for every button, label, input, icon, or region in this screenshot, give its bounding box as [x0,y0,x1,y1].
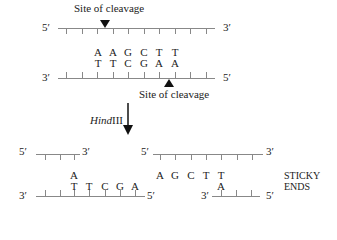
right-frag-upper-backbone [153,154,263,155]
left-frag-lower-five-prime: 5′ [147,190,155,201]
right-frag-five-prime: 5′ [141,146,149,157]
process-arrow-head-icon [123,125,133,135]
five-prime-bottom: 5′ [223,72,231,83]
right-frag-lower-three-prime: 3′ [201,190,209,201]
three-prime-bottom: 3′ [42,72,50,83]
base: A [154,58,164,69]
three-prime-top: 3′ [223,22,231,33]
base: G [170,170,180,181]
right-frag-three-prime: 3′ [266,146,274,157]
base: T [93,58,103,69]
left-frag-three-prime: 3′ [82,146,90,157]
bottom-strand-backbone [58,78,215,79]
enzyme-label-roman: III [112,114,123,126]
base: A [155,170,165,181]
base: T [201,170,211,181]
base: A [170,58,180,69]
base: C [186,170,196,181]
cleavage-marker-bottom-icon [164,79,174,87]
left-frag-lower-three-prime: 3′ [19,190,27,201]
cleavage-marker-top-icon [100,20,110,28]
five-prime-top: 5′ [42,22,50,33]
base: G [139,58,149,69]
ends-label: ENDS [284,181,310,192]
right-frag-lower-five-prime: 5′ [266,190,274,201]
right-frag-lower-backbone [212,196,260,197]
enzyme-label: HindIII [90,115,123,126]
base: C [123,58,133,69]
left-frag-lower-backbone [36,196,145,197]
left-frag-five-prime: 5′ [19,146,27,157]
cleavage-site-label-bottom: Site of cleavage [139,89,209,100]
enzyme-label-italic: Hind [90,114,112,126]
sticky-label: STICKY [284,170,320,181]
base: T [108,58,118,69]
